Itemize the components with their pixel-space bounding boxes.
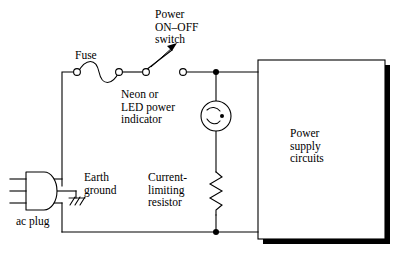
power-supply-circuits-block <box>258 60 390 244</box>
circuit-diagram: Power ON–OFF switch Fuse Neon or LED pow… <box>0 0 396 256</box>
switch-open-terminal[interactable] <box>180 69 187 76</box>
fuse-terminal-right <box>116 69 123 76</box>
neon-gas-dot <box>220 114 224 118</box>
neon-lamp-symbol <box>201 101 231 131</box>
switch-callout-arrow <box>151 43 177 67</box>
current-limiting-resistor-symbol <box>210 172 222 215</box>
label-power-supply-circuits: Power supply circuits <box>290 127 324 165</box>
resistor-zigzag <box>210 172 222 215</box>
fuse-symbol <box>74 62 123 83</box>
wire-hot-plug-to-fuse <box>62 72 74 186</box>
earth-ground-icon <box>69 197 85 205</box>
label-power-switch: Power ON–OFF switch <box>155 8 198 46</box>
fuse-terminal-left <box>74 69 81 76</box>
ac-plug-symbol <box>10 172 57 210</box>
neon-lamp-envelope <box>201 101 231 131</box>
power-switch-symbol[interactable] <box>143 50 187 75</box>
junction-dot-bottom <box>213 229 219 235</box>
switch-pivot-terminal[interactable] <box>143 69 150 76</box>
ac-plug-prongs <box>10 179 26 203</box>
label-current-limiting-resistor: Current- limiting resistor <box>148 171 187 209</box>
label-neon-indicator: Neon or LED power indicator <box>121 88 175 126</box>
label-ac-plug: ac plug <box>16 215 50 228</box>
label-fuse: Fuse <box>75 49 97 62</box>
junction-dot-top <box>213 69 219 75</box>
callout-arrow-shaft <box>151 47 173 67</box>
ac-plug-body <box>26 172 57 210</box>
label-earth-ground: Earth ground <box>84 171 117 196</box>
fuse-element <box>78 62 119 83</box>
